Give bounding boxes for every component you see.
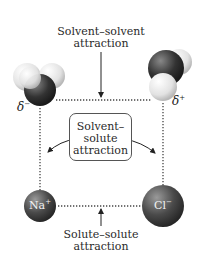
ion-charge: − — [166, 198, 172, 206]
ion-charge: + — [45, 198, 51, 206]
partial-charge-positive: δ+ — [172, 94, 185, 108]
solvent-solute-box: Solvent– solute attraction — [69, 113, 132, 161]
charge-sign: + — [179, 94, 185, 102]
partial-charge-negative: δ− — [17, 100, 30, 114]
solvent-solvent-label: Solvent–solvent attraction — [50, 26, 152, 50]
ion-symbol: Na — [29, 199, 45, 212]
hydrogen-atom — [19, 67, 41, 89]
label-line: attraction — [50, 38, 152, 50]
water-molecule-right — [148, 49, 192, 101]
sodium-ion-label: Na+ — [26, 198, 54, 212]
solvent-solute-label: Solvent– solute attraction — [70, 114, 131, 157]
charge-sign: − — [24, 100, 30, 108]
chloride-ion-label: Cl− — [149, 198, 177, 212]
solute-solute-label: Solute–solute attraction — [55, 229, 147, 253]
label-line: attraction — [70, 145, 131, 157]
ion-symbol: Cl — [154, 199, 166, 212]
label-line: attraction — [55, 241, 147, 253]
